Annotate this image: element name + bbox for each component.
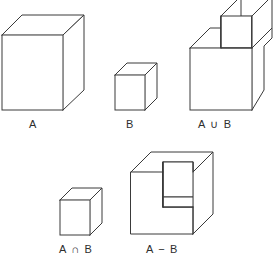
difference-ab-drawing (131, 152, 213, 234)
label-difference-ab: A − B (146, 243, 179, 255)
difference-ab-notch-back-face (163, 162, 193, 197)
label-cube-b: B (126, 118, 135, 130)
label-intersection-ab: A ∩ B (59, 243, 93, 255)
difference-ab-notch-floor-face (163, 197, 193, 207)
cube-b-drawing (115, 63, 157, 110)
union-ab-main-front-face (190, 48, 252, 110)
intersection-ab-drawing (60, 188, 102, 235)
label-union-ab: A ∪ B (198, 118, 232, 131)
cube-a-front-face (2, 35, 63, 110)
cube-b-front-face (115, 75, 145, 110)
csg-boolean-operations-figure: A B A ∪ B A ∩ B A − B (0, 0, 276, 261)
cube-a-drawing (2, 15, 84, 110)
intersection-ab-front-face (60, 200, 90, 235)
union-ab-drawing (190, 0, 272, 110)
label-cube-a: A (29, 118, 38, 130)
union-ab-protrusion-front-face (221, 16, 252, 48)
figure-canvas (0, 0, 276, 261)
